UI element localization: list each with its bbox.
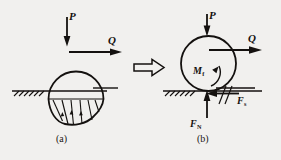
label-force-FN-base: F <box>190 118 197 129</box>
force-Q-head-b <box>249 46 262 54</box>
rolling-resistance-figure: P Q (a) P Q Mf Fs FN (b) <box>0 0 281 160</box>
moment-Mf-arrowhead <box>212 67 218 74</box>
label-moment-Mf-subscript: f <box>202 70 204 77</box>
force-Q-head-a <box>110 48 122 55</box>
panel-a-artwork <box>12 17 122 125</box>
wheel-outline-a <box>49 72 104 100</box>
label-moment-Mf-base: M <box>193 65 202 76</box>
force-P-head-a <box>64 36 71 47</box>
figure-line-art <box>0 0 281 160</box>
label-force-FN-subscript: N <box>197 123 201 130</box>
label-force-Fs-subscript: s <box>244 100 246 107</box>
force-P-head-b <box>204 26 211 37</box>
label-force-P-a: P <box>69 11 76 22</box>
label-force-FN: FN <box>190 119 201 129</box>
label-force-Q-b: Q <box>248 33 256 44</box>
label-force-Fs-base: F <box>237 95 244 106</box>
wheel-outline-b <box>181 36 236 91</box>
label-force-Q-a: Q <box>108 35 116 46</box>
caption-panel-b: (b) <box>197 134 209 144</box>
contact-pressure-arrowheads-a <box>61 110 83 116</box>
label-force-Fs: Fs <box>237 96 246 106</box>
deformation-outline-a <box>49 99 104 125</box>
panel-b-artwork <box>163 14 262 118</box>
label-force-P-b: P <box>209 10 216 21</box>
label-moment-Mf: Mf <box>193 66 204 76</box>
caption-panel-a: (a) <box>56 134 67 144</box>
transition-arrow <box>134 60 164 76</box>
